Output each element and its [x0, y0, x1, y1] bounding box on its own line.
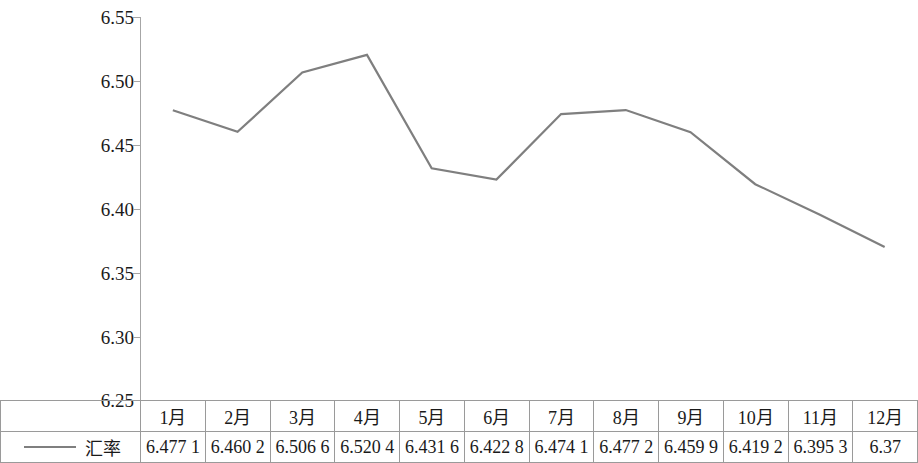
month-header-cell: 7月 [529, 401, 594, 432]
plot-area: 6.55 6.50 6.45 6.40 6.35 6.30 6.25 [0, 0, 917, 400]
y-axis-ticks [133, 18, 141, 401]
value-cell: 6.422 8 [464, 432, 529, 463]
month-header-cell: 8月 [594, 401, 659, 432]
value-cell: 6.506 6 [270, 432, 335, 463]
month-header-cell: 2月 [205, 401, 270, 432]
month-header-cell: 5月 [400, 401, 465, 432]
legend-cell: 汇率 [1, 432, 141, 463]
month-header-cell: 3月 [270, 401, 335, 432]
value-cell: 6.395 3 [788, 432, 853, 463]
table-row-values: 汇率 6.477 1 6.460 2 6.506 6 6.520 4 6.431… [1, 432, 918, 463]
value-cell: 6.460 2 [205, 432, 270, 463]
data-table: 1月 2月 3月 4月 5月 6月 7月 8月 9月 10月 11月 12月 [0, 400, 918, 463]
month-header-cell: 11月 [788, 401, 853, 432]
value-cell: 6.520 4 [335, 432, 400, 463]
value-cell: 6.419 2 [723, 432, 788, 463]
month-header-cell: 6月 [464, 401, 529, 432]
month-header-cell: 12月 [853, 401, 918, 432]
month-header-cell: 4月 [335, 401, 400, 432]
value-cell: 6.477 1 [141, 432, 206, 463]
table-corner-blank [1, 401, 141, 432]
value-cell: 6.477 2 [594, 432, 659, 463]
data-series-line [173, 55, 885, 247]
month-header-cell: 1月 [141, 401, 206, 432]
legend-line-swatch-icon [24, 446, 76, 448]
value-cell: 6.474 1 [529, 432, 594, 463]
table-row-months: 1月 2月 3月 4月 5月 6月 7月 8月 9月 10月 11月 12月 [1, 401, 918, 432]
value-cell: 6.459 9 [659, 432, 724, 463]
data-table-region: 1月 2月 3月 4月 5月 6月 7月 8月 9月 10月 11月 12月 [0, 400, 917, 462]
month-header-cell: 10月 [723, 401, 788, 432]
value-cell: 6.431 6 [400, 432, 465, 463]
month-header-cell: 9月 [659, 401, 724, 432]
value-cell: 6.37 [853, 432, 918, 463]
legend-series-label: 汇率 [85, 434, 121, 460]
plot-svg [0, 0, 917, 401]
